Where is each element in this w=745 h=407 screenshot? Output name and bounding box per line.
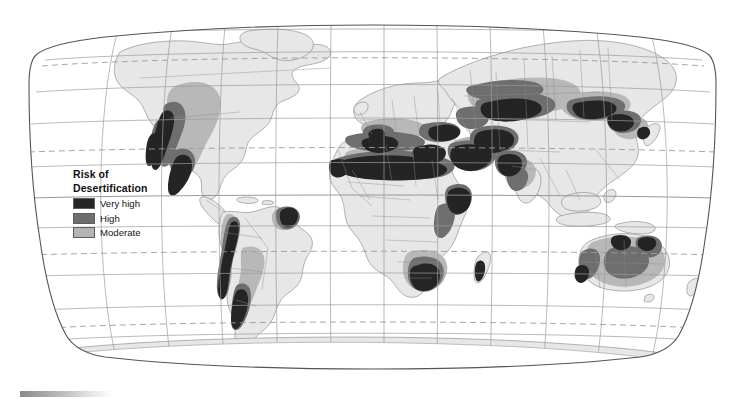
legend-swatch-very-high xyxy=(73,198,95,209)
legend-items: Very high High Moderate xyxy=(73,197,165,239)
legend-item-moderate: Moderate xyxy=(73,226,165,239)
legend-title-line1: Risk of xyxy=(73,168,165,182)
gradient-scale-bar xyxy=(20,391,112,397)
legend-label-high: High xyxy=(100,213,120,224)
legend-title-line2: Desertification xyxy=(73,182,165,196)
land-hispaniola xyxy=(262,201,274,205)
land-southeast-asia xyxy=(562,192,601,211)
legend-label-moderate: Moderate xyxy=(100,227,141,238)
map-legend: Risk of Desertification Very high High M… xyxy=(73,168,165,241)
legend-item-very-high: Very high xyxy=(73,197,165,210)
land-caribbean xyxy=(237,197,258,203)
legend-swatch-high xyxy=(73,213,95,224)
legend-swatch-moderate xyxy=(73,227,95,238)
legend-label-very-high: Very high xyxy=(100,198,140,209)
world-desertification-risk-map: Risk of Desertification Very high High M… xyxy=(0,0,745,407)
legend-item-high: High xyxy=(73,212,165,225)
